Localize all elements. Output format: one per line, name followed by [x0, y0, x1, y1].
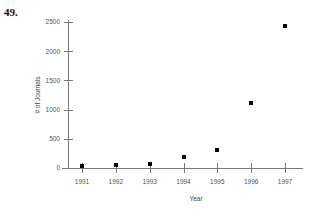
x-tick-label: 1991 [75, 178, 90, 185]
data-point [182, 155, 186, 159]
y-tick-label: 2500 [46, 18, 61, 25]
y-tick-label: 1500 [46, 77, 61, 84]
data-point [249, 101, 253, 105]
data-point [80, 164, 84, 168]
data-point [215, 148, 219, 152]
y-tick-label: 1000 [46, 106, 61, 113]
y-tick-label: 500 [49, 135, 60, 142]
scatter-plot: 05001000150020002500 # of Journals 19911… [0, 0, 312, 218]
x-tick-group: 1991199219931994199519961997 [75, 163, 293, 185]
x-tick-label: 1997 [278, 178, 293, 185]
data-point [283, 24, 287, 28]
y-tick-label: 2000 [46, 48, 61, 55]
x-tick-label: 1996 [244, 178, 259, 185]
x-tick-label: 1994 [176, 178, 191, 185]
x-axis: 1991199219931994199519961997 Year [62, 163, 303, 202]
data-point [148, 162, 152, 166]
y-axis: 05001000150020002500 # of Journals [34, 18, 73, 171]
x-axis-title: Year [189, 195, 203, 202]
figure-page: 49. 05001000150020002500 # of Journals 1… [0, 0, 312, 218]
x-tick-label: 1993 [142, 178, 157, 185]
x-tick-label: 1995 [210, 178, 225, 185]
data-point-group [80, 24, 287, 169]
y-tick-label: 0 [56, 164, 60, 171]
data-point [114, 163, 118, 167]
x-tick-label: 1992 [109, 178, 124, 185]
y-axis-title: # of Journals [34, 76, 41, 114]
